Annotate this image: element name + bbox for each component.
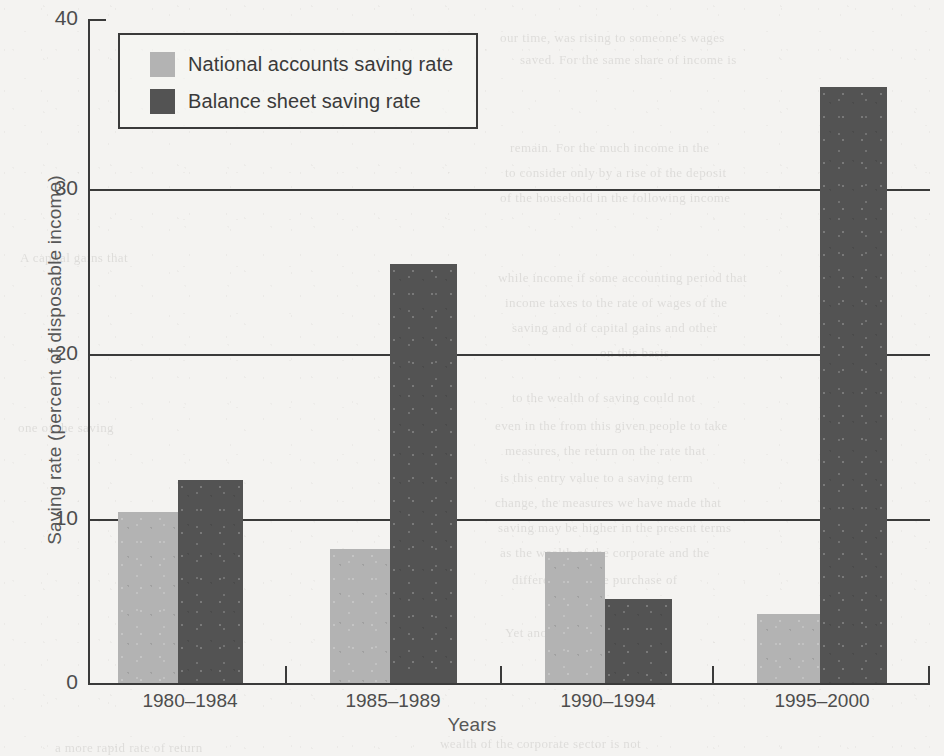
y-tick-label-40: 40: [32, 6, 78, 30]
x-category-label-2: 1985–1989: [303, 690, 483, 712]
x-category-label-1: 1980–1984: [100, 690, 280, 712]
x-category-label-3: 1990–1994: [518, 690, 698, 712]
legend-item-balance: Balance sheet saving rate: [150, 89, 421, 114]
legend-swatch-national-icon: [150, 52, 175, 77]
x-category-label-4: 1995–2000: [732, 690, 912, 712]
x-minor-tick-3: [712, 666, 714, 683]
x-minor-tick-1: [285, 666, 287, 683]
x-axis-line: [88, 683, 930, 685]
bar-1980-1984-national: [118, 512, 178, 683]
legend-item-national: National accounts saving rate: [150, 52, 453, 77]
bar-1985-1989-balance: [390, 264, 457, 683]
bar-1985-1989-national: [330, 549, 390, 683]
bar-1990-1994-balance: [605, 599, 672, 683]
bar-1995-2000-national: [757, 614, 820, 683]
gridline-20: [88, 354, 930, 356]
gridline-30: [88, 189, 930, 191]
legend-label-national: National accounts saving rate: [188, 53, 453, 76]
bar-1990-1994-national: [545, 552, 605, 683]
bar-1980-1984-balance: [178, 480, 243, 683]
chart-legend: National accounts saving rate Balance sh…: [118, 33, 478, 129]
y-axis-line: [88, 19, 90, 685]
y-axis-title: Saving rate (percent of disposable incom…: [44, 50, 66, 670]
bar-1995-2000-balance: [820, 87, 887, 683]
y-tick-label-0: 0: [32, 670, 78, 694]
y-axis-top-cap: [88, 19, 106, 21]
legend-swatch-balance-icon: [150, 89, 175, 114]
x-minor-tick-2: [500, 666, 502, 683]
x-axis-title: Years: [0, 714, 944, 736]
legend-label-balance: Balance sheet saving rate: [188, 90, 421, 113]
x-axis-right-cap: [928, 666, 930, 685]
